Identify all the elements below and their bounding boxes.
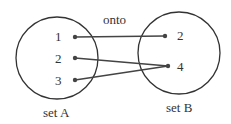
mapping-diagram: onto 1 2 3 2 4 set A set B (0, 0, 231, 124)
diagram-title: onto (103, 12, 126, 27)
set-b-circle (138, 12, 220, 94)
set-b-element-2: 2 (177, 28, 184, 43)
dot-a-3 (73, 78, 77, 82)
set-a-element-3: 3 (55, 73, 62, 88)
arrow-3-to-4 (75, 66, 168, 80)
arrow-2-to-4 (75, 58, 168, 66)
set-b-element-4: 4 (177, 59, 184, 74)
dot-b-4 (166, 64, 170, 68)
dot-a-2 (73, 56, 77, 60)
set-a-label: set A (43, 105, 70, 120)
dot-b-2 (163, 34, 167, 38)
set-a-element-1: 1 (55, 29, 62, 44)
dot-a-1 (73, 35, 77, 39)
set-a-element-2: 2 (55, 51, 62, 66)
set-b-label: set B (166, 100, 193, 115)
arrow-1-to-2 (75, 36, 165, 37)
